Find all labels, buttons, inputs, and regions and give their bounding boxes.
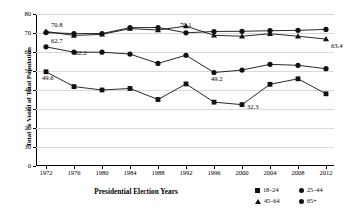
x-tick-label: 2000 [235, 170, 248, 177]
data-point [72, 84, 77, 89]
legend: 18–24 25–44 45–64 65+ [255, 185, 345, 207]
y-tick-label: 0 [28, 163, 31, 170]
x-tick-label: 2012 [319, 170, 332, 177]
legend-label: 65+ [307, 198, 317, 204]
data-point [156, 97, 161, 102]
data-point [268, 82, 273, 87]
circle-marker-icon [299, 188, 304, 193]
x-tick-label: 2004 [263, 170, 276, 177]
data-label: 62.7 [51, 38, 63, 45]
circle-marker-icon [299, 199, 304, 204]
y-axis-title: Total % Voted of Total Population [25, 17, 33, 177]
y-tick-label: 70 [24, 30, 31, 37]
y-tick-label: 60 [24, 49, 31, 56]
legend-item-18-24[interactable]: 18–24 [255, 187, 299, 193]
x-tick-label: 1984 [123, 170, 136, 177]
legend-item-45-64[interactable]: 45–64 [255, 198, 299, 204]
data-point [155, 61, 160, 66]
x-tick-label: 1976 [67, 170, 80, 177]
y-tick-label: 40 [24, 87, 31, 94]
data-label: 49.2 [211, 76, 223, 83]
line-chart: Total % Voted of Total Population 010203… [0, 0, 345, 215]
data-point [99, 50, 104, 55]
data-point [239, 29, 244, 34]
data-point [127, 51, 132, 56]
data-point [267, 62, 272, 67]
data-point [267, 28, 272, 33]
x-tick-label: 1988 [151, 170, 164, 177]
legend-label: 45–64 [264, 198, 279, 204]
data-label: 70.8 [51, 22, 63, 29]
legend-label: 25–44 [307, 187, 322, 193]
series-layer [36, 14, 336, 164]
triangle-marker-icon [255, 199, 261, 204]
x-tick-label: 2008 [291, 170, 304, 177]
data-label: 63.4 [331, 43, 343, 50]
data-label: 49.6 [42, 75, 54, 82]
y-tick-label: 30 [24, 106, 31, 113]
x-tick-label: 1972 [39, 170, 52, 177]
data-point [100, 88, 105, 93]
y-tick-label: 20 [24, 125, 31, 132]
series-line [46, 72, 326, 105]
data-label: 70.1 [180, 22, 192, 29]
data-point [43, 44, 48, 49]
data-point [127, 25, 132, 30]
x-tick-label: 1980 [95, 170, 108, 177]
legend-item-25-44[interactable]: 25–44 [299, 187, 345, 193]
data-point [295, 63, 300, 68]
data-point [323, 27, 328, 32]
y-tick [33, 166, 36, 167]
data-label: 62.2 [75, 50, 87, 57]
data-point [43, 30, 48, 35]
data-point [239, 67, 244, 72]
legend-label: 18–24 [263, 187, 278, 193]
data-point [240, 102, 245, 107]
data-label: 32.3 [247, 104, 259, 111]
data-point [296, 76, 301, 81]
data-point [183, 53, 188, 58]
data-point [71, 31, 76, 36]
series-line [46, 47, 326, 73]
data-point [211, 29, 216, 34]
data-point [99, 31, 104, 36]
data-point [128, 86, 133, 91]
y-tick-label: 50 [24, 68, 31, 75]
square-marker-icon [255, 188, 260, 193]
x-tick-label: 1992 [179, 170, 192, 177]
data-point [183, 30, 188, 35]
data-point [324, 91, 329, 96]
data-point [212, 100, 217, 105]
data-point [323, 66, 328, 71]
y-tick-label: 10 [24, 144, 31, 151]
legend-item-65-plus[interactable]: 65+ [299, 198, 345, 204]
data-point [184, 82, 189, 87]
data-point [295, 28, 300, 33]
x-tick-label: 1996 [207, 170, 220, 177]
x-axis-title: Presidential Election Years [36, 187, 236, 196]
y-tick-label: 80 [24, 11, 31, 18]
plot-area: 01020304050607080 1972197619801984198819… [36, 14, 334, 166]
data-point [155, 25, 160, 30]
